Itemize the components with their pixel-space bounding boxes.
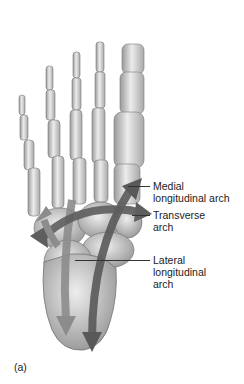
phalanges [19,42,144,170]
transverse-arch-leader-line [132,215,150,216]
lateral-arch-leader-line [75,260,150,261]
medial-arch-leader-line [128,186,150,187]
transverse-arch-label: Transverse arch [153,209,205,233]
panel-label: (a) [14,361,27,373]
medial-longitudinal-arch-label: Medial longitudinal arch [153,180,229,204]
lateral-longitudinal-arch-label: Lateral longitudinal arch [153,254,206,290]
calcaneus [43,254,116,350]
